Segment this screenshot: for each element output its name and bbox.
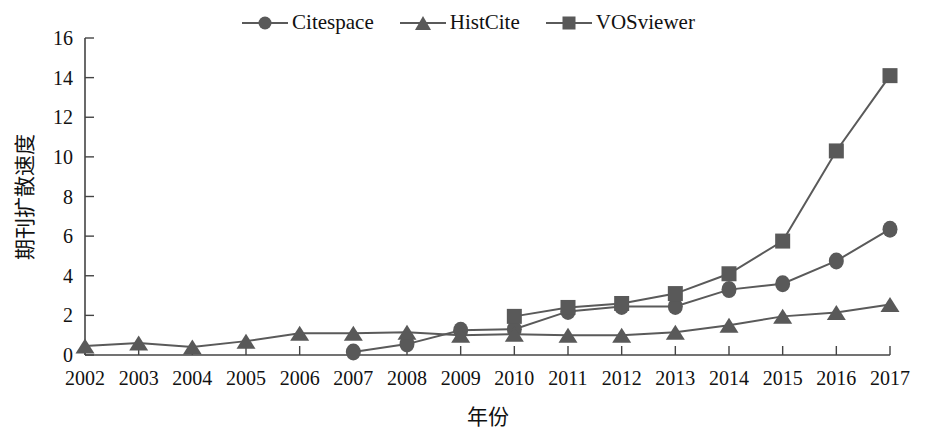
x-tick-label: 2003 <box>119 367 159 389</box>
y-tick-label: 2 <box>63 304 73 326</box>
y-tick-label: 14 <box>53 67 73 89</box>
y-tick-label: 0 <box>63 344 73 366</box>
y-tick-label: 16 <box>53 27 73 49</box>
x-tick-label: 2016 <box>816 367 856 389</box>
data-point-vosviewer-2016[interactable] <box>829 143 844 158</box>
series-line-vosviewer <box>514 76 890 317</box>
x-tick-label: 2004 <box>172 367 212 389</box>
x-tick-label: 2014 <box>709 367 749 389</box>
series-layer <box>76 68 900 360</box>
data-point-citespace-2007[interactable] <box>346 344 361 361</box>
y-tick-label: 6 <box>63 225 73 247</box>
x-tick-label: 2002 <box>65 367 105 389</box>
x-tick-label: 2006 <box>280 367 320 389</box>
x-tick-label: 2005 <box>226 367 266 389</box>
series-line-histcite <box>85 304 890 347</box>
x-tick-label: 2011 <box>548 367 587 389</box>
data-point-vosviewer-2011[interactable] <box>561 300 576 315</box>
y-tick-label: 4 <box>63 265 73 287</box>
data-point-vosviewer-2010[interactable] <box>507 309 522 324</box>
x-tick-label: 2017 <box>870 367 910 389</box>
chart-container: Citespace HistCite VOSviewer 02468101214… <box>0 0 937 447</box>
x-tick-label: 2007 <box>333 367 373 389</box>
data-point-citespace-2017[interactable] <box>883 221 898 238</box>
data-point-vosviewer-2013[interactable] <box>668 286 683 301</box>
data-point-vosviewer-2017[interactable] <box>883 68 898 83</box>
chart-plot-area: 0246810121416 20022003200420052006200720… <box>0 0 937 447</box>
x-tick-label: 2012 <box>602 367 642 389</box>
data-point-citespace-2015[interactable] <box>775 275 790 292</box>
x-tick-label: 2010 <box>494 367 534 389</box>
x-tick-label: 2015 <box>763 367 803 389</box>
data-point-vosviewer-2014[interactable] <box>722 266 737 281</box>
y-tick-label: 12 <box>53 106 73 128</box>
x-tick-label: 2009 <box>441 367 481 389</box>
x-tick-label: 2013 <box>655 367 695 389</box>
data-point-citespace-2014[interactable] <box>722 281 737 298</box>
y-axis-title: 期刊扩散速度 <box>13 134 36 260</box>
data-point-vosviewer-2012[interactable] <box>614 296 629 311</box>
y-tick-label: 8 <box>63 186 73 208</box>
x-axis-title: 年份 <box>467 405 509 428</box>
y-tick-label: 10 <box>53 146 73 168</box>
y-axis: 0246810121416 <box>53 27 94 366</box>
x-tick-label: 2008 <box>387 367 427 389</box>
data-point-vosviewer-2015[interactable] <box>775 234 790 249</box>
data-point-citespace-2016[interactable] <box>829 252 844 269</box>
